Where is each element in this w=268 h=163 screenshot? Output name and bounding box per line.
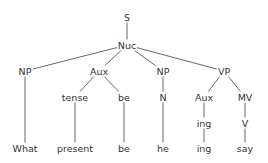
tree-node-what: What [12, 143, 39, 154]
edge-Nuc-VP [127, 45, 224, 71]
tree-node-be1: be [117, 92, 131, 103]
tree-node-vp: VP [217, 66, 231, 77]
tree-node-nuc: Nuc [117, 40, 137, 51]
tree-node-np1: NP [18, 66, 33, 77]
tree-node-mv: MV [237, 92, 254, 103]
tree-node-aux1: Aux [89, 66, 109, 77]
tree-node-s: S [123, 12, 131, 23]
tree-node-be2: be [117, 143, 131, 154]
edge-Nuc-NP1 [25, 45, 127, 71]
tree-node-ing2: ing [196, 143, 213, 154]
tree-node-aux2: Aux [194, 92, 214, 103]
syntax-tree-diagram: SNucNPAuxNPVPtensebeNAuxMVingVWhatpresen… [0, 0, 268, 163]
tree-node-n: N [158, 92, 167, 103]
tree-node-tense: tense [61, 92, 89, 103]
tree-edges [0, 0, 268, 163]
tree-node-np2: NP [156, 66, 171, 77]
tree-node-ing1: ing [196, 118, 213, 129]
tree-node-he: he [156, 143, 170, 154]
tree-node-say: say [236, 143, 254, 154]
tree-node-present: present [56, 143, 94, 154]
tree-node-v: V [241, 118, 250, 129]
